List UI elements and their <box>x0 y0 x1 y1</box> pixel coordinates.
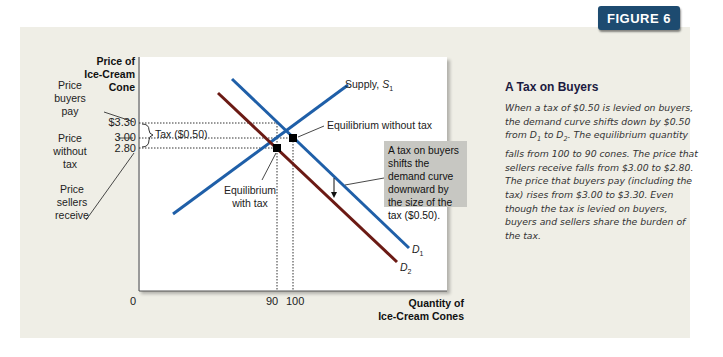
label-price-sellers-receive: Price sellers receive <box>52 183 92 222</box>
y-axis-title-line: Price of <box>80 55 135 68</box>
d1-subscript: 1 <box>420 250 424 257</box>
origin-label: 0 <box>130 295 136 308</box>
label-line: with tax <box>222 197 278 210</box>
label-line: Price <box>52 183 92 196</box>
tax-brace-icon <box>142 124 153 147</box>
supply-label-text: Supply, <box>345 78 382 90</box>
equilibrium-with-tax-label: Equilibrium with tax <box>222 184 278 210</box>
label-line: sellers <box>52 196 92 209</box>
d1-label: D1 <box>412 243 424 260</box>
equilibrium-without-tax-label: Equilibrium without tax <box>327 119 432 132</box>
label-line: Price <box>48 132 92 145</box>
y-tick: $3.30 <box>104 116 136 129</box>
x-axis-title-line: Ice-Cream Cones <box>360 310 464 323</box>
y-axis-title: Price of Ice-Cream Cone <box>80 55 135 94</box>
x-axis-title: Quantity of Ice-Cream Cones <box>360 297 464 323</box>
label-price-buyers-pay: Price buyers pay <box>52 79 88 118</box>
y-tick: 2.80 <box>104 142 136 155</box>
d2-symbol: D <box>400 261 408 273</box>
label-line: receive <box>52 209 92 222</box>
x-tick: 90 <box>266 295 278 308</box>
y-axis-title-line: Cone <box>80 81 135 94</box>
d2-subscript: 2 <box>408 268 412 275</box>
tax-callout-box: A tax on buyers shifts the demand curve … <box>384 141 467 207</box>
label-line: Equilibrium <box>222 184 278 197</box>
label-line: buyers <box>52 92 88 105</box>
arrow-down-icon <box>331 192 337 198</box>
tax-label: Tax ($0.50) <box>155 128 208 141</box>
x-axis-title-line: Quantity of <box>360 297 464 310</box>
caption-text: . The equilibrium quantity falls from 10… <box>505 129 698 241</box>
caption-body: When a tax of $0.50 is levied on buyers,… <box>505 101 700 243</box>
label-line: pay <box>52 105 88 118</box>
equilibrium-point-without-tax <box>289 134 297 142</box>
d2-label: D2 <box>400 261 412 278</box>
label-price-without-tax: Price without tax <box>48 132 92 171</box>
y-axis-title-line: Ice-Cream <box>80 68 135 81</box>
label-line: Price <box>52 79 88 92</box>
x-tick: 100 <box>286 295 304 308</box>
caption-title: A Tax on Buyers <box>505 80 598 94</box>
caption-text: to D <box>541 129 563 140</box>
equilibrium-point-with-tax <box>273 144 281 152</box>
label-line: tax <box>48 158 92 171</box>
supply-label: Supply, S1 <box>345 78 393 95</box>
d1-symbol: D <box>412 243 420 255</box>
supply-subscript: 1 <box>389 85 393 92</box>
label-line: without <box>48 145 92 158</box>
